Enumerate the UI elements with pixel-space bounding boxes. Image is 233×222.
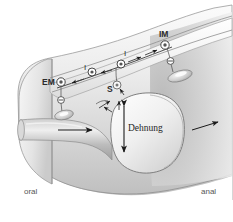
label-anal-end: anal (201, 187, 216, 196)
label-interneuron-oral: I (84, 63, 86, 72)
lumen-oral-opening (18, 120, 25, 141)
label-sensory: S (107, 84, 113, 94)
inhibitory-sign-im (167, 58, 174, 65)
neuron-interneuron-anal (117, 60, 125, 68)
diagram-canvas: EM IM I I S Dehnung oral anal (0, 0, 233, 222)
label-distension: Dehnung (128, 123, 163, 133)
neuron-sensory (113, 81, 121, 89)
peristaltic-reflex-figure: EM IM I I S Dehnung oral anal (0, 0, 233, 222)
neuron-im (161, 41, 169, 49)
gut-tube (18, 5, 232, 205)
distended-bolus-segment (111, 93, 185, 173)
label-inhibitory-motor: IM (159, 29, 168, 39)
inhibitory-sign-em (58, 97, 65, 104)
label-oral-end: oral (24, 187, 38, 196)
neuron-interneuron-oral (88, 68, 96, 76)
label-excitatory-motor: EM (42, 77, 55, 87)
label-interneuron-anal: I (124, 49, 126, 58)
neuron-em (57, 78, 65, 86)
